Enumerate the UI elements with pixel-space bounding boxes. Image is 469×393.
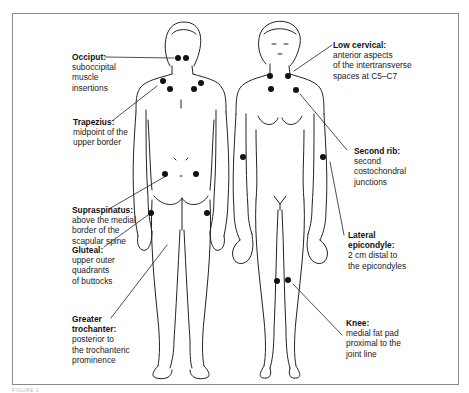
label-text: posterior to bbox=[72, 334, 130, 344]
tender-points bbox=[148, 55, 326, 284]
label-lateral-epicondyle-title-1: Lateral bbox=[348, 230, 406, 240]
label-text: 2 cm distal to bbox=[348, 250, 406, 260]
label-low-cervical-title: Low cervical: bbox=[333, 40, 412, 50]
label-gluteal: Gluteal: upper outer quadrants of buttoc… bbox=[72, 245, 115, 286]
label-text: the trochanteric bbox=[72, 345, 130, 355]
label-text: suboccipital bbox=[72, 62, 116, 72]
label-occiput-title: Occiput: bbox=[72, 52, 116, 62]
label-trapezius-title: Trapezius: bbox=[73, 117, 128, 127]
label-text: of the intertransverse bbox=[333, 60, 412, 70]
label-text: second bbox=[354, 156, 406, 166]
label-greater-trochanter-title-1: Greater bbox=[72, 314, 130, 324]
figure-caption: FIGURE 1 bbox=[12, 387, 39, 393]
label-knee-title: Knee: bbox=[346, 318, 401, 328]
label-occiput: Occiput: suboccipital muscle insertions bbox=[72, 52, 116, 93]
label-knee: Knee: medial fat pad proximal to the joi… bbox=[346, 318, 401, 359]
anterior-figure bbox=[233, 21, 328, 378]
label-text: medial fat pad bbox=[346, 328, 401, 338]
label-text: above the medial bbox=[72, 215, 136, 225]
label-supraspinatus: Supraspinatus: above the medial border o… bbox=[72, 205, 136, 246]
label-supraspinatus-title: Supraspinatus: bbox=[72, 205, 136, 215]
label-text: muscle bbox=[72, 72, 116, 82]
label-second-rib: Second rib: second costochondral junctio… bbox=[354, 146, 406, 187]
label-greater-trochanter: Greater trochanter: posterior to the tro… bbox=[72, 314, 130, 365]
label-text: joint line bbox=[346, 349, 401, 359]
label-text: anterior aspects bbox=[333, 50, 412, 60]
posterior-figure bbox=[133, 22, 229, 379]
label-text: prominence bbox=[72, 355, 130, 365]
label-text: costochondral bbox=[354, 166, 406, 176]
label-text: upper border bbox=[73, 137, 128, 147]
label-text: junctions bbox=[354, 177, 406, 187]
label-low-cervical: Low cervical: anterior aspects of the in… bbox=[333, 40, 412, 81]
label-text: proximal to the bbox=[346, 338, 401, 348]
label-text: border of the bbox=[72, 225, 136, 235]
label-text: the epicondyles bbox=[348, 261, 406, 271]
label-second-rib-title: Second rib: bbox=[354, 146, 406, 156]
label-trapezius: Trapezius: midpoint of the upper border bbox=[73, 117, 128, 148]
label-text: upper outer bbox=[72, 255, 115, 265]
label-lateral-epicondyle-title-2: epicondyle: bbox=[348, 240, 406, 250]
label-text: spaces at C5–C7 bbox=[333, 71, 412, 81]
label-lateral-epicondyle: Lateral epicondyle: 2 cm distal to the e… bbox=[348, 230, 406, 271]
label-gluteal-title: Gluteal: bbox=[72, 245, 115, 255]
label-text: quadrants bbox=[72, 265, 115, 275]
label-greater-trochanter-title-2: trochanter: bbox=[72, 324, 130, 334]
label-text: of buttocks bbox=[72, 276, 115, 286]
label-text: insertions bbox=[72, 83, 116, 93]
leader-lines bbox=[104, 45, 347, 335]
label-text: midpoint of the bbox=[73, 127, 128, 137]
